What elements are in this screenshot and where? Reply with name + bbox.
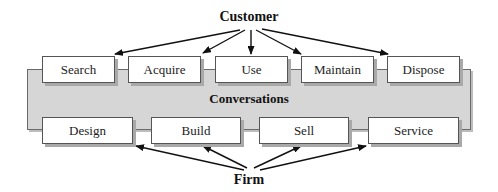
firm-label: Firm — [0, 172, 498, 188]
activity-box-use: Use — [215, 56, 288, 83]
customer-label: Customer — [0, 9, 498, 25]
arrow-customer-maintain — [256, 30, 301, 54]
arrow-firm-service — [260, 146, 366, 170]
activity-label: Design — [69, 123, 106, 139]
activity-label: Sell — [294, 123, 314, 139]
firm-arrows — [136, 146, 366, 170]
activity-box-acquire: Acquire — [128, 56, 201, 83]
arrow-customer-acquire — [203, 30, 245, 53]
activity-box-service: Service — [368, 117, 459, 144]
activity-label: Acquire — [144, 62, 186, 78]
activity-box-search: Search — [42, 56, 115, 83]
conversations-label: Conversations — [0, 91, 498, 107]
activity-label: Search — [61, 62, 96, 78]
activity-label: Build — [182, 123, 211, 139]
activity-box-design: Design — [42, 117, 133, 144]
arrow-customer-dispose — [262, 29, 388, 54]
activity-box-build: Build — [151, 117, 241, 144]
customer-arrows — [115, 29, 388, 54]
activity-label: Dispose — [403, 62, 445, 78]
activity-box-maintain: Maintain — [301, 56, 374, 83]
activity-box-dispose: Dispose — [387, 56, 460, 83]
arrow-firm-build — [203, 146, 247, 168]
arrow-firm-sell — [254, 146, 301, 168]
activity-label: Use — [241, 62, 261, 78]
activity-label: Service — [394, 123, 433, 139]
arrow-firm-design — [136, 146, 244, 170]
activity-box-sell: Sell — [259, 117, 349, 144]
arrow-customer-search — [115, 30, 240, 54]
customer-firm-conversations-diagram: Conversations Customer Firm Search — [0, 0, 498, 192]
activity-label: Maintain — [314, 62, 361, 78]
